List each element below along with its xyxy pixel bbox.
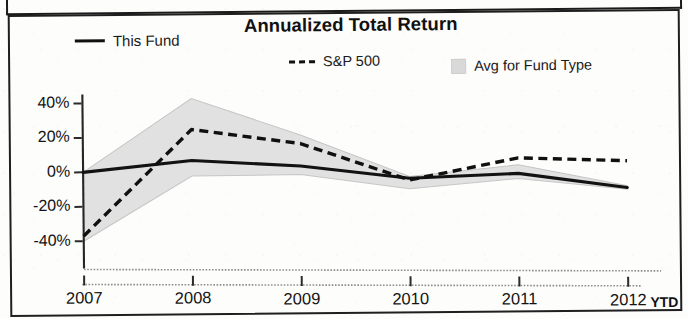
- x-axis-tick-label: 2010: [386, 289, 436, 308]
- y-axis-tick-label: -20%: [8, 197, 70, 216]
- y-axis-tick-label: -40%: [9, 231, 71, 250]
- x-axis-line: [82, 279, 641, 291]
- x-axis-tick-label: 2012: [603, 290, 653, 309]
- x-axis-tick-label: 2007: [59, 288, 109, 307]
- avg-fund-type-band: [82, 94, 627, 241]
- x-axis-ytd-label: YTD: [650, 293, 678, 309]
- x-axis-tick-label: 2008: [168, 289, 218, 308]
- y-axis-tick-label: 0%: [8, 162, 70, 181]
- plot-bottom-rule: [84, 264, 661, 276]
- y-axis-line: [82, 95, 84, 269]
- x-axis-tick-label: 2009: [277, 289, 327, 308]
- y-axis-tick-label: 40%: [7, 94, 69, 113]
- y-axis-tick-label: 20%: [8, 128, 70, 147]
- x-axis-tick-label: 2011: [494, 289, 544, 308]
- avg-fund-type-band-area: [82, 94, 627, 241]
- chart-area: Annualized Total Return This Fund S&P 50…: [0, 5, 688, 317]
- plot-svg: [0, 5, 688, 317]
